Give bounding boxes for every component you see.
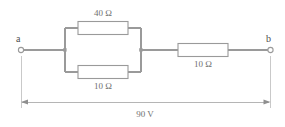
terminal-label-b: b — [266, 34, 271, 44]
junction-node-left — [63, 48, 66, 51]
resistor-body-40-ohm — [78, 22, 128, 35]
resistor-label-40-ohm: 40 Ω — [94, 9, 112, 18]
dimension-arrow-left — [21, 100, 28, 105]
circuit-diagram: a b 40 Ω 10 Ω 10 Ω 90 V — [0, 0, 285, 127]
dimension-arrow-right — [264, 100, 271, 105]
terminal-node-a — [18, 47, 23, 52]
circuit-schematic-canvas — [0, 0, 285, 127]
terminal-label-a: a — [16, 34, 20, 44]
terminal-node-b — [268, 47, 273, 52]
resistor-body-10-ohm-series — [178, 44, 228, 57]
resistor-body-10-ohm-parallel — [78, 66, 128, 79]
junction-node-right — [139, 48, 142, 51]
resistor-label-10-ohm-parallel: 10 Ω — [94, 82, 112, 91]
source-voltage-label: 90 V — [136, 110, 154, 119]
resistor-label-10-ohm-series: 10 Ω — [194, 60, 212, 69]
